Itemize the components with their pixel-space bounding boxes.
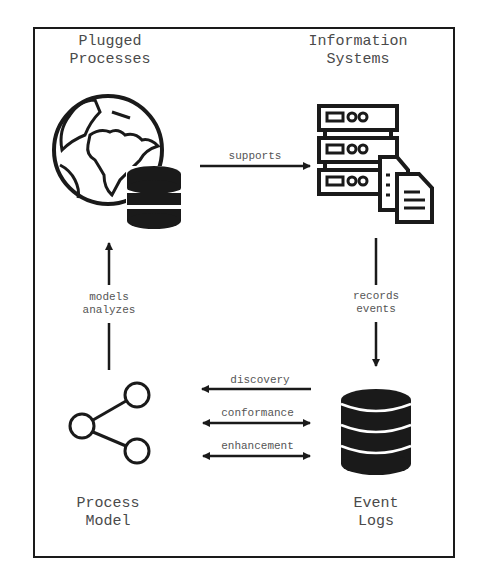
enhancement-label: enhancement — [205, 440, 310, 453]
event-logs-title: Event Logs — [336, 495, 416, 531]
records-events-label: records events — [336, 290, 416, 316]
discovery-label: discovery — [210, 374, 310, 387]
conformance-label: conformance — [205, 407, 310, 420]
models-analyzes-label: models analyzes — [69, 291, 149, 317]
supports-label: supports — [210, 150, 300, 163]
process-model-title: Process Model — [58, 495, 158, 531]
server-documents-icon — [319, 106, 432, 222]
database-icon — [341, 389, 411, 475]
information-systems-title: Information Systems — [288, 33, 428, 69]
plugged-processes-title: Plugged Processes — [50, 33, 170, 69]
share-graph-icon — [70, 383, 149, 463]
globe-database-icon — [54, 96, 182, 229]
